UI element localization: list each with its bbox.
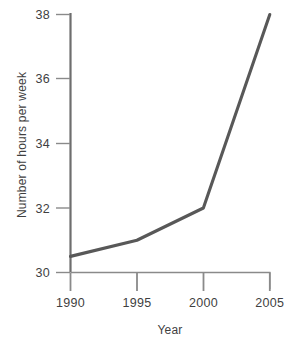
x-axis-title: Year (157, 323, 182, 337)
chart-canvas: 38 36 34 32 30 1990 1995 2000 2005 Year … (0, 0, 301, 350)
x-tick-marks (71, 273, 270, 292)
y-tick-label-34: 34 (35, 137, 50, 151)
y-tick-marks (56, 15, 70, 273)
x-tick-label-1990: 1990 (56, 296, 85, 310)
x-tick-label-1995: 1995 (122, 296, 151, 310)
data-series-line (71, 15, 270, 257)
line-chart: 38 36 34 32 30 1990 1995 2000 2005 Year … (0, 0, 301, 350)
y-tick-label-32: 32 (35, 202, 50, 216)
y-tick-label-30: 30 (35, 266, 50, 280)
y-tick-label-36: 36 (35, 72, 50, 86)
y-tick-label-38: 38 (35, 8, 50, 22)
x-tick-label-2000: 2000 (189, 296, 218, 310)
x-tick-label-2005: 2005 (255, 296, 284, 310)
y-axis-title: Number of hours per week (15, 71, 29, 218)
